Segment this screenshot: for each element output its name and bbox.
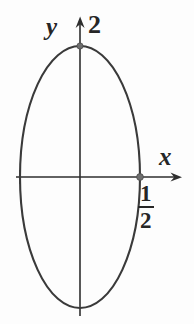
ellipse-figure: y 2 x 1 2 (0, 0, 194, 324)
fraction-numerator: 1 (138, 182, 154, 205)
x-intercept-label: 1 2 (138, 182, 154, 233)
y-intercept-point (77, 43, 83, 49)
x-axis-label: x (159, 144, 172, 169)
y-axis-label: y (46, 14, 57, 39)
fraction-denominator: 2 (138, 209, 154, 232)
fraction-one-half: 1 2 (138, 182, 154, 233)
x-intercept-point (137, 174, 144, 181)
y-intercept-label: 2 (88, 12, 101, 38)
